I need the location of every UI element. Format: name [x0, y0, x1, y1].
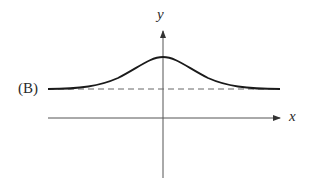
bell-curve [48, 57, 280, 89]
y-axis-label: y [157, 6, 164, 23]
x-axis-label: x [289, 108, 296, 125]
graph-canvas [0, 0, 320, 188]
option-label: (B) [18, 80, 38, 97]
